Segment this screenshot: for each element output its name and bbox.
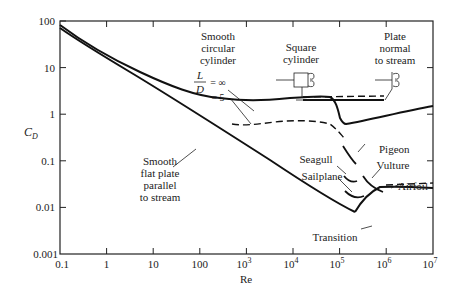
curve-cylinder-inf bbox=[60, 25, 433, 124]
y-axis-label: CD bbox=[24, 125, 38, 141]
x-tick-label: 1 bbox=[104, 258, 110, 270]
label-ld-L: L bbox=[196, 69, 203, 81]
curve-square-cylinder-dashed bbox=[303, 96, 384, 97]
y-tick-label: 1 bbox=[50, 108, 56, 120]
label-transition: Transition bbox=[313, 231, 358, 243]
x-tick-label: 10 bbox=[148, 258, 160, 270]
x-tick-label: 104 bbox=[284, 256, 299, 270]
label-ld-inf: = ∞ bbox=[210, 77, 225, 88]
label-cylinder: cylinder bbox=[200, 54, 236, 66]
chart-svg: 100 10 1 0.1 0.01 0.001 0.1 1 10 100 103… bbox=[0, 0, 455, 297]
x-tick-label: 100 bbox=[192, 258, 209, 270]
curve-vulture bbox=[363, 176, 383, 192]
x-axis bbox=[107, 21, 387, 254]
y-tick-label: 0.1 bbox=[41, 155, 55, 167]
label-cylinder: Smooth bbox=[201, 30, 236, 42]
label-plate-normal: to stream bbox=[375, 54, 416, 66]
y-tick-label: 100 bbox=[39, 15, 56, 27]
label-flat-plate: Smooth bbox=[143, 155, 178, 167]
x-tick-label: 106 bbox=[377, 256, 392, 270]
y-tick-label: 0.01 bbox=[36, 201, 55, 213]
label-ld-5: = 5 bbox=[211, 92, 224, 103]
label-seagull: Seagull bbox=[300, 153, 333, 165]
label-square-cylinder: Square bbox=[286, 41, 317, 53]
x-axis-label: Re bbox=[240, 273, 252, 285]
annotations: Smooth circular cylinder L D = ∞ = 5 Squ… bbox=[140, 30, 428, 243]
y-tick-label: 10 bbox=[44, 62, 56, 74]
label-plate-normal: normal bbox=[379, 42, 410, 54]
label-ld-D: D bbox=[195, 83, 204, 95]
x-tick-label: 105 bbox=[330, 256, 345, 270]
x-tick-label: 103 bbox=[237, 256, 252, 270]
label-square-cylinder: cylinder bbox=[283, 53, 319, 65]
label-flat-plate: flat plate bbox=[141, 167, 180, 179]
curve-cylinder-5 bbox=[232, 121, 346, 140]
label-pigeon: Pigeon bbox=[379, 143, 410, 155]
x-tick-label: 107 bbox=[423, 256, 438, 270]
curve-seagull bbox=[344, 176, 357, 182]
x-tick-label: 0.1 bbox=[55, 258, 69, 270]
label-airfoil: Airfoil bbox=[398, 180, 428, 192]
label-plate-normal: Plate bbox=[384, 30, 406, 42]
label-cylinder: circular bbox=[201, 42, 235, 54]
y-axis bbox=[60, 21, 433, 207]
x-tick-labels: 0.1 1 10 100 103 104 105 106 107 bbox=[55, 256, 437, 270]
label-flat-plate: parallel bbox=[144, 179, 177, 191]
label-sailplane: Sailplane bbox=[302, 170, 343, 182]
label-flat-plate: to stream bbox=[140, 191, 181, 203]
curve-sailplane bbox=[345, 191, 364, 197]
drag-coefficient-chart: 100 10 1 0.1 0.01 0.001 0.1 1 10 100 103… bbox=[0, 0, 455, 297]
label-vulture: Vulture bbox=[377, 159, 410, 171]
curve-pigeon bbox=[343, 146, 356, 164]
